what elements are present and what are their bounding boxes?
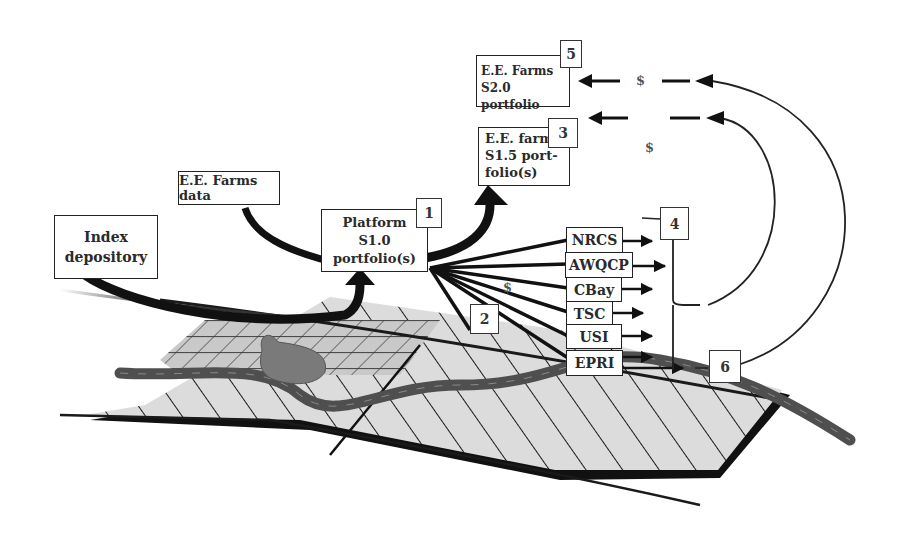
org-nrcs: NRCS <box>566 227 623 253</box>
platform-line1: Platform <box>342 214 406 232</box>
org-awqcp: AWQCP <box>565 252 633 278</box>
ee-farms-s20-line2: S2.0 portfolio <box>481 80 569 114</box>
dollar-flow-to-s15: $ <box>645 140 654 155</box>
number-badge-3: 3 <box>548 118 578 148</box>
org-epri: EPRI <box>566 350 623 376</box>
org-cbay: CBay <box>566 277 622 302</box>
index-depository-line2: depository <box>65 247 147 267</box>
org-tsc: TSC <box>566 301 613 326</box>
ee-farm-s15-line3: folio(s) <box>485 164 569 181</box>
number-badge-5: 5 <box>560 40 582 68</box>
index-depository-box: Index depository <box>54 215 158 279</box>
number-badge-6: 6 <box>709 350 741 383</box>
platform-s10-portfolio-box: Platform S1.0 portfolio(s) <box>321 209 428 272</box>
number-badge-4: 4 <box>660 207 689 240</box>
land-plate <box>60 290 850 505</box>
platform-line2: S1.0 portfolio(s) <box>322 232 427 268</box>
dollar-flow-to-s20: $ <box>636 73 645 88</box>
brace-4 <box>673 240 700 370</box>
index-depository-line1: Index <box>84 227 128 247</box>
number-badge-1: 1 <box>416 198 442 228</box>
number-badge-2: 2 <box>470 304 499 334</box>
ee-farm-s15-line2: S1.5 port- <box>485 147 569 164</box>
org-usi: USI <box>566 324 622 349</box>
ee-farms-data-label: E.E. Farms data <box>179 173 279 203</box>
ee-farms-s20-line1: E.E. Farms <box>481 63 569 80</box>
ee-farms-s20-portfolio-box: E.E. Farms S2.0 portfolio <box>476 55 570 107</box>
return-arc-to-s20 <box>712 81 845 365</box>
ee-farms-data-box: E.E. Farms data <box>178 171 280 205</box>
dollar-flow-from-platform: $ <box>503 280 512 295</box>
return-arc-to-s15 <box>708 118 775 305</box>
